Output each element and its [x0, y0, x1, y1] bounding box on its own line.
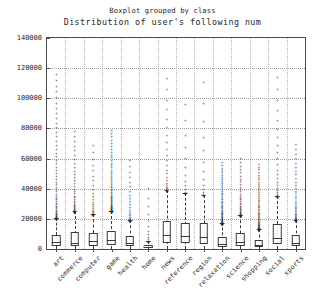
- outlier-marker: [73, 178, 76, 181]
- y-tick-mark: [47, 189, 50, 190]
- outlier-marker: [202, 162, 205, 165]
- outlier-marker: [202, 137, 205, 140]
- boxplot-group[interactable]: [250, 38, 268, 249]
- box-iqr: [89, 233, 97, 246]
- outlier-marker: [184, 120, 187, 123]
- boxplot-group[interactable]: [121, 38, 139, 249]
- x-tick-mark: [277, 249, 278, 252]
- outlier-marker: [129, 191, 132, 194]
- median-line: [181, 236, 189, 237]
- outlier-marker: [73, 184, 76, 187]
- box-iqr: [236, 233, 244, 246]
- outlier-marker: [147, 207, 150, 210]
- outlier-marker: [184, 167, 187, 170]
- y-tick-mark: [47, 128, 50, 129]
- outlier-marker: [110, 133, 113, 136]
- outlier-marker: [55, 149, 58, 152]
- outlier-marker: [202, 150, 205, 153]
- outlier-marker: [239, 169, 242, 172]
- box-iqr: [273, 224, 281, 244]
- outlier-marker: [258, 167, 261, 170]
- outlier-marker: [73, 186, 76, 189]
- outlier-marker: [294, 171, 297, 174]
- y-tick-mark: [47, 249, 50, 250]
- outlier-marker: [165, 155, 168, 158]
- boxplot-group[interactable]: [287, 38, 305, 249]
- outlier-marker: [294, 163, 297, 166]
- boxplot-group[interactable]: [268, 38, 286, 249]
- outlier-marker: [276, 138, 279, 141]
- outlier-marker: [294, 188, 297, 191]
- outlier-marker: [92, 152, 95, 155]
- outlier-marker: [73, 141, 76, 144]
- outlier-marker: [202, 171, 205, 174]
- boxplot-group[interactable]: [213, 38, 231, 249]
- boxplot-group[interactable]: [139, 38, 157, 249]
- outlier-marker: [165, 174, 168, 177]
- outlier-marker: [258, 164, 261, 167]
- outlier-marker: [147, 221, 150, 224]
- boxplot-group[interactable]: [158, 38, 176, 249]
- outlier-marker: [129, 177, 132, 180]
- outlier-marker: [276, 165, 279, 168]
- outlier-marker: [92, 202, 95, 205]
- x-tick-mark: [56, 249, 57, 252]
- outlier-marker: [294, 194, 297, 197]
- outlier-marker: [165, 180, 168, 183]
- outlier-marker: [129, 187, 132, 190]
- y-tick-label: 60000: [21, 155, 42, 163]
- boxplot-group[interactable]: [176, 38, 194, 249]
- outlier-marker: [129, 172, 132, 175]
- outlier-marker: [73, 151, 76, 154]
- outlier-marker: [165, 165, 168, 168]
- outlier-marker: [294, 191, 297, 194]
- boxplot-group[interactable]: [65, 38, 83, 249]
- outlier-marker: [165, 110, 168, 113]
- outlier-marker: [92, 181, 95, 184]
- box-iqr: [52, 235, 60, 246]
- outlier-marker: [55, 182, 58, 185]
- median-line: [52, 242, 60, 243]
- box-iqr: [107, 231, 115, 245]
- outlier-marker: [239, 173, 242, 176]
- outlier-marker: [110, 152, 113, 155]
- outlier-marker: [55, 123, 58, 126]
- outlier-marker: [147, 235, 150, 238]
- outlier-marker: [294, 159, 297, 162]
- x-tick-mark: [167, 249, 168, 252]
- boxplot-group[interactable]: [231, 38, 249, 249]
- outlier-marker: [110, 158, 113, 161]
- outlier-marker: [55, 145, 58, 148]
- median-line: [126, 243, 134, 244]
- outlier-marker: [110, 137, 113, 140]
- boxplot-group[interactable]: [194, 38, 212, 249]
- outlier-marker: [110, 140, 113, 143]
- outlier-marker: [92, 159, 95, 162]
- outlier-marker: [184, 181, 187, 184]
- outlier-marker: [294, 167, 297, 170]
- outlier-marker: [55, 173, 58, 176]
- outlier-marker: [147, 198, 150, 201]
- outlier-marker: [294, 149, 297, 152]
- outlier-marker: [239, 182, 242, 185]
- outlier-marker: [73, 146, 76, 149]
- boxplot-group[interactable]: [84, 38, 102, 249]
- outlier-marker: [129, 207, 132, 210]
- outlier-marker: [165, 78, 168, 81]
- box-iqr: [255, 240, 263, 248]
- outlier-marker: [129, 205, 132, 208]
- outlier-marker: [165, 100, 168, 103]
- data-layer: [47, 38, 305, 249]
- outlier-marker: [276, 129, 279, 132]
- outlier-marker: [110, 146, 113, 149]
- x-tick-mark: [112, 249, 113, 252]
- outlier-marker: [92, 145, 95, 148]
- boxplot-group[interactable]: [102, 38, 120, 249]
- outlier-marker: [202, 179, 205, 182]
- outlier-marker: [294, 178, 297, 181]
- boxplot-group[interactable]: [47, 38, 65, 249]
- outlier-marker: [202, 189, 205, 192]
- outlier-marker: [55, 170, 58, 173]
- outlier-marker: [129, 160, 132, 163]
- outlier-marker: [184, 175, 187, 178]
